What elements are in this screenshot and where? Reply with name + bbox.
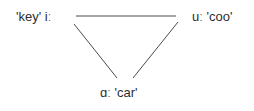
edge-i-a [74,24,117,78]
node-label-u: uː 'coo' [192,9,232,24]
edge-u-a [133,22,178,78]
node-label-i: 'key' iː [16,9,51,24]
node-label-a: ɑː 'car' [100,85,137,100]
